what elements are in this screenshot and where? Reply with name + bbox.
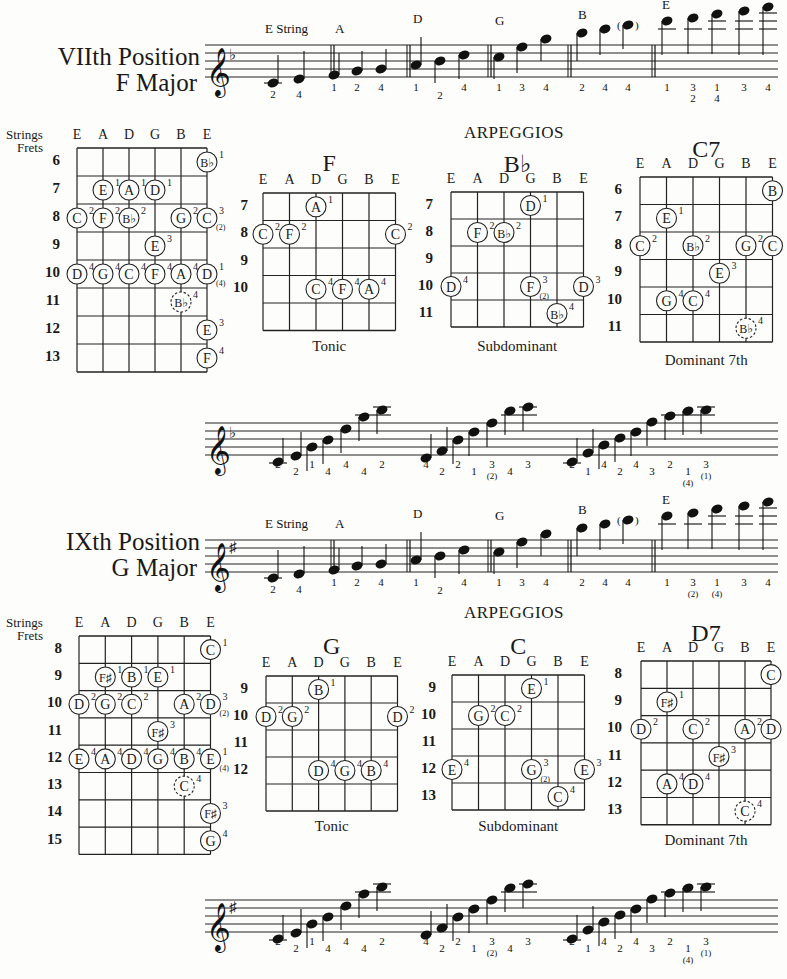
string-label: G	[709, 640, 729, 656]
svg-text:(: (	[617, 19, 621, 32]
position-title-key: F Major	[40, 70, 200, 96]
fretboard-grid: B♭1E1A1D1C2F2B♭2G2C3(2)E3D4G4C4F4A4D1(4)…	[57, 138, 247, 392]
svg-text:A: A	[740, 722, 751, 737]
svg-text:F: F	[203, 351, 211, 366]
svg-text:F: F	[527, 280, 535, 295]
note-marker: C	[761, 665, 781, 685]
note-marker: A4	[359, 276, 386, 299]
fingering-number: 4	[343, 935, 349, 947]
svg-text:4: 4	[758, 315, 763, 326]
svg-text:2: 2	[652, 233, 657, 244]
svg-text:4: 4	[705, 288, 710, 299]
note-marker: D4	[309, 758, 336, 781]
note-marker: G4	[335, 758, 362, 781]
note-marker: F4	[197, 345, 224, 368]
svg-text:2: 2	[491, 703, 496, 714]
string-label: B	[736, 156, 756, 172]
svg-text:B: B	[768, 184, 777, 199]
fingering-number: 4	[296, 583, 302, 595]
treble-clef-icon: 𝄞	[206, 48, 231, 98]
svg-text:B♭: B♭	[200, 156, 214, 170]
string-label: E	[441, 171, 461, 187]
fret-number: 11	[222, 734, 248, 751]
svg-text:C: C	[553, 790, 562, 805]
svg-text:D: D	[72, 267, 82, 282]
note-marker: G2	[282, 704, 309, 727]
string-section-label: G	[495, 13, 504, 28]
arpeggio-staff-svg: 𝄞♯221444242213(2)4321424321(4)3(1)	[200, 870, 778, 979]
svg-text:E: E	[527, 682, 536, 697]
fingering-number: 3	[703, 935, 709, 947]
arpeggio-staff: 𝄞♭221444242213(2)4321424321(4)3(1)	[200, 395, 778, 499]
fingering-number: 2	[667, 935, 673, 947]
svg-text:3: 3	[597, 757, 602, 768]
string-label: D	[119, 127, 139, 143]
svg-text:2: 2	[490, 220, 495, 231]
svg-text:C: C	[768, 239, 777, 254]
svg-text:2: 2	[144, 691, 149, 702]
svg-text:1: 1	[223, 746, 228, 757]
note-marker: F♯3	[201, 800, 228, 823]
note-marker: F3(2)	[521, 274, 550, 301]
string-label: D	[494, 171, 514, 187]
note-marker: F2	[93, 205, 120, 228]
svg-text:A: A	[124, 183, 135, 198]
string-label: B	[359, 172, 379, 188]
fingering-number: 4	[507, 465, 513, 477]
svg-text:D: D	[202, 267, 212, 282]
svg-text:F♯: F♯	[152, 726, 165, 740]
fingering-number: 3	[489, 935, 495, 947]
svg-text:A: A	[662, 777, 673, 792]
fingering-number: 4	[601, 935, 607, 947]
note-marker: F2	[468, 220, 495, 243]
fretboard-grid: C1F♯1B1E1D2G2C2A2D3(2)F♯3E4A4D4G4B4E1(4)…	[59, 626, 251, 874]
string-label: B	[547, 171, 567, 187]
fret-number: 8	[36, 640, 62, 657]
svg-text:4: 4	[115, 261, 120, 272]
fingering-number: 2	[270, 88, 276, 100]
fingering-number: 1	[413, 81, 419, 93]
string-label: E	[574, 171, 594, 187]
scale-staff-svg: 𝄞♯E String24A124D124G134B244E13(2)1(4)34…	[200, 490, 778, 600]
svg-text:4: 4	[196, 773, 201, 784]
note-marker: C2	[630, 233, 657, 256]
svg-text:1: 1	[115, 177, 120, 188]
chord-name: G	[246, 633, 418, 660]
fingering-number: 4	[461, 81, 467, 93]
fingering-number: 4	[378, 81, 384, 93]
note-marker: B♭4	[736, 315, 763, 338]
string-section-label: E String	[265, 21, 308, 36]
string-label: A	[468, 171, 488, 187]
svg-text:G: G	[526, 763, 536, 778]
fingering-number: 4	[625, 576, 631, 588]
fingering-number: (1)	[701, 948, 712, 958]
note-marker: G2	[469, 703, 496, 726]
svg-text:C: C	[202, 211, 211, 226]
fingering-number: 2	[455, 458, 461, 470]
chord-name: B♭	[431, 150, 604, 178]
svg-text:3: 3	[167, 233, 172, 244]
svg-text:4: 4	[144, 746, 149, 757]
svg-text:(4): (4)	[220, 764, 230, 773]
svg-text:B♭: B♭	[550, 308, 564, 322]
fret-number: 8	[222, 224, 248, 241]
note-marker: D2	[69, 691, 96, 714]
fingering-number: 4	[507, 942, 513, 954]
string-label: D	[683, 640, 703, 656]
svg-text:4: 4	[117, 746, 122, 757]
fingering-number: 4	[423, 935, 429, 947]
fret-number: 7	[222, 197, 248, 214]
fingering-number: 2	[437, 584, 443, 596]
svg-text:4: 4	[383, 758, 388, 769]
svg-text:4: 4	[328, 276, 333, 287]
svg-text:C: C	[688, 722, 697, 737]
fret-number: 13	[36, 776, 62, 793]
fingering-number: 2	[270, 583, 276, 595]
fingering-number: 2	[569, 935, 575, 947]
svg-text:B: B	[180, 752, 189, 767]
string-label: D	[495, 654, 515, 670]
string-label: E	[253, 172, 273, 188]
fret-number: 7	[407, 196, 433, 213]
svg-text:(4): (4)	[216, 279, 226, 288]
string-label: G	[145, 127, 165, 143]
